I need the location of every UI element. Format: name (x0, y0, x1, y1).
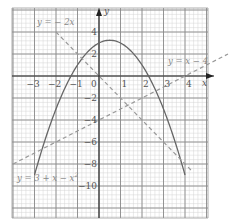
y-tick-label: −8 (84, 159, 98, 169)
x-tick-label: −1 (70, 79, 83, 89)
label-parabola: y = 3 + x − x2 (16, 171, 78, 183)
y-axis-arrow-icon (96, 8, 102, 16)
y-tick-label: −10 (78, 181, 97, 191)
grid-major (12, 8, 208, 218)
y-tick-label: −2 (84, 93, 97, 103)
x-tick-label: 4 (186, 79, 192, 89)
y-tick-label: 4 (91, 27, 97, 37)
label-y-neg2x: y = − 2x (36, 17, 75, 27)
x-axis-label: x (202, 78, 207, 88)
x-tick-label: 1 (122, 79, 128, 89)
line-y-neg2x (56, 32, 191, 171)
x-tick-label: 2 (143, 79, 149, 89)
y-axis-label: y (103, 6, 110, 16)
origin-label: 0 (91, 79, 97, 89)
parabola-curve (35, 40, 186, 175)
tick-labels: −3−2−1123442−2−4−6−8−10 (27, 27, 193, 191)
label-y-x-minus-4: y = x − 4 (167, 56, 208, 66)
grid-minor (12, 8, 208, 218)
x-tick-label: 3 (165, 79, 171, 89)
x-tick-label: −3 (27, 79, 41, 89)
graph-plot: −3−2−1123442−2−4−6−8−10 y x 0 y = − 2x y… (0, 0, 231, 219)
x-tick-label: −2 (48, 79, 61, 89)
y-tick-label: −6 (84, 137, 98, 147)
y-tick-label: −4 (84, 115, 98, 125)
y-tick-label: 2 (91, 49, 97, 59)
x-axis-arrow-icon (206, 73, 214, 79)
